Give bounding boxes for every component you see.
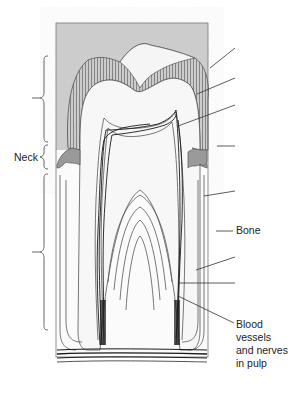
- leader-root-dentin: [204, 191, 235, 196]
- crown-bracket: [32, 56, 48, 142]
- label-neck: Neck: [14, 151, 39, 163]
- label-blood-vessels-3: and nerves: [236, 344, 288, 356]
- label-blood-vessels-4: in pulp: [236, 357, 267, 369]
- leader-enamel: [210, 48, 235, 68]
- neck-bracket: [40, 145, 48, 169]
- root-bracket: [32, 174, 48, 330]
- label-blood-vessels-2: vessels: [236, 331, 271, 343]
- tooth-diagram: Neck Bone Blood vessels and nerves in pu…: [0, 0, 304, 402]
- label-bone: Bone: [236, 224, 261, 236]
- label-blood-vessels-1: Blood: [236, 318, 263, 330]
